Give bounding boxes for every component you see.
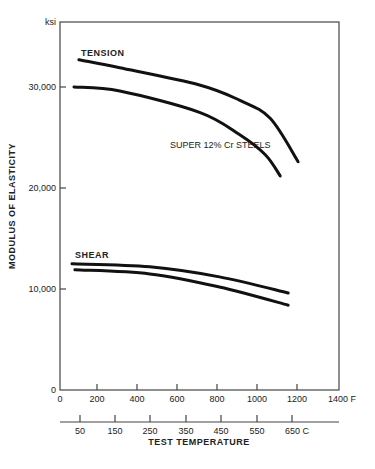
plot-frame (60, 22, 339, 390)
series-line-1 (74, 87, 280, 176)
x-tick-f-0: 0 (57, 394, 62, 404)
x-ticks-c (80, 415, 292, 422)
x-tick-f-1000: 1000 (247, 394, 267, 404)
x-tick-c-450: 450 (213, 426, 228, 436)
y-tick-30000: 30,000 (28, 82, 56, 92)
y-tick-10000: 10,000 (28, 284, 56, 294)
chart: ksi 30,000 20,000 10,000 0 MODULUS OF EL… (0, 0, 375, 469)
x-axis-title: TEST TEMPERATURE (148, 437, 249, 447)
y-tick-0: 0 (51, 385, 56, 395)
series-line-3 (75, 270, 288, 305)
x-tick-c-350: 350 (178, 426, 193, 436)
x-ticks-f (97, 384, 297, 390)
y-ticks (60, 87, 66, 289)
y-unit-label: ksi (45, 17, 56, 27)
x-tick-c-150: 150 (107, 426, 122, 436)
x-tick-c-50: 50 (75, 426, 85, 436)
x-tick-f-800: 800 (209, 394, 224, 404)
y-axis-title: MODULUS OF ELASTICITY (7, 143, 17, 269)
x-tick-f-1200: 1200 (287, 394, 307, 404)
x-tick-f-200: 200 (89, 394, 104, 404)
y-tick-20000: 20,000 (28, 183, 56, 193)
tension-label: TENSION (81, 48, 125, 58)
x-tick-c-650: 650 C (285, 426, 310, 436)
x-tick-f-600: 600 (169, 394, 184, 404)
curves (72, 60, 298, 306)
x-tick-c-550: 550 (249, 426, 264, 436)
x-tick-f-1400: 1400 F (328, 394, 357, 404)
x-tick-c-250: 250 (142, 426, 157, 436)
x-tick-f-400: 400 (129, 394, 144, 404)
shear-label: SHEAR (75, 250, 109, 260)
